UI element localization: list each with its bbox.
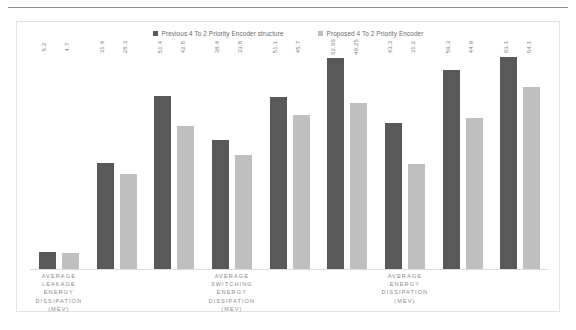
bar-group: 38.433.8 [203, 48, 261, 269]
bar-value-label: 51.1 [272, 41, 278, 53]
axis-baseline [30, 269, 549, 270]
bar[interactable]: 44.9 [466, 118, 483, 269]
bar-slot: 54.1 [523, 48, 540, 269]
bar[interactable]: 45.7 [293, 115, 310, 269]
legend-item[interactable]: Previous 4 To 2 Priority Encoder structu… [153, 30, 284, 37]
chart-legend: Previous 4 To 2 Priority Encoder structu… [17, 30, 559, 37]
category-slot [491, 272, 549, 312]
bar-value-label: 45.7 [295, 41, 301, 53]
bar-group: 51.145.7 [261, 48, 319, 269]
bar[interactable]: 33.8 [235, 155, 252, 269]
bar-slot: 51.1 [270, 48, 287, 269]
category-slot: AVERAGESWITCHINGENERGYDISSIPATION(MEV) [203, 272, 261, 312]
category-label-line: AVERAGE [209, 272, 256, 280]
category-label-line: ENERGY [382, 280, 429, 288]
bar[interactable]: 54.1 [523, 87, 540, 269]
bar[interactable]: 42.5 [177, 126, 194, 269]
bar[interactable]: 43.3 [385, 123, 402, 269]
bar-slot: 5.2 [39, 48, 56, 269]
bar[interactable]: 28.3 [120, 174, 137, 269]
category-slot [318, 272, 376, 312]
category-label-line: SWITCHING [209, 280, 256, 288]
category-slot [88, 272, 146, 312]
bar-slot: 59.3 [443, 48, 460, 269]
bar-value-label: 54.1 [526, 41, 532, 53]
category-slot: AVERAGEENERGYDISSIPATION(MEV) [376, 272, 434, 312]
bar-value-label: 49.25 [353, 39, 359, 55]
bar-slot: 42.5 [177, 48, 194, 269]
bar-value-label: 63.1 [503, 41, 509, 53]
bar-slot: 38.4 [212, 48, 229, 269]
chart-page: Previous 4 To 2 Priority Encoder structu… [0, 0, 576, 330]
bar-value-label: 28.3 [122, 41, 128, 53]
category-axis-label: AVERAGESWITCHINGENERGYDISSIPATION(MEV) [209, 272, 256, 312]
bar-slot: 63.1 [500, 48, 517, 269]
category-label-line: (MEV) [35, 305, 82, 313]
category-label-line: AVERAGE [35, 272, 82, 280]
bar-slot: 28.3 [120, 48, 137, 269]
category-axis-label: AVERAGEENERGYDISSIPATION(MEV) [382, 272, 429, 312]
bar-group: 5.24.7 [30, 48, 88, 269]
category-label-line: DISSIPATION [209, 297, 256, 305]
bar-value-label: 44.9 [468, 41, 474, 53]
bar-value-label: 42.5 [180, 41, 186, 53]
bar-slot: 51.4 [154, 48, 171, 269]
square-marker-icon [153, 31, 158, 36]
bar-slot: 49.25 [350, 48, 367, 269]
plot-area: 5.24.731.428.351.442.538.433.851.145.762… [30, 48, 549, 270]
category-label-line: (MEV) [382, 297, 429, 305]
bar[interactable]: 59.3 [443, 70, 460, 269]
square-marker-icon [318, 31, 323, 36]
category-slot [434, 272, 492, 312]
bar-value-label: 59.3 [445, 41, 451, 53]
bar-value-label: 33.8 [237, 41, 243, 53]
legend-item-label: Proposed 4 To 2 Priority Encoder [327, 30, 424, 37]
category-slot [145, 272, 203, 312]
bar-slot: 4.7 [62, 48, 79, 269]
bar[interactable]: 51.4 [154, 96, 171, 269]
bar[interactable]: 49.25 [350, 103, 367, 269]
bar-group: 62.6649.25 [318, 48, 376, 269]
category-label-line: (MEV) [209, 305, 256, 313]
bar-slot: 62.66 [327, 48, 344, 269]
category-axis: AVERAGELEAKAGEENERGYDISSIPATION(MEV)AVER… [30, 272, 549, 312]
bar[interactable]: 62.66 [327, 58, 344, 269]
bar-value-label: 5.2 [41, 43, 47, 52]
bar[interactable]: 38.4 [212, 140, 229, 269]
bar-value-label: 38.4 [214, 41, 220, 53]
bar[interactable]: 51.1 [270, 97, 287, 269]
bar-group: 43.331.2 [376, 48, 434, 269]
top-divider-rule [8, 7, 568, 8]
bar-value-label: 51.4 [157, 41, 163, 53]
bar[interactable]: 31.2 [408, 164, 425, 269]
category-axis-label: AVERAGELEAKAGEENERGYDISSIPATION(MEV) [35, 272, 82, 312]
bar[interactable]: 31.4 [97, 163, 114, 269]
bar-group: 31.428.3 [88, 48, 146, 269]
bar-value-label: 43.3 [387, 41, 393, 53]
legend-item[interactable]: Proposed 4 To 2 Priority Encoder [318, 30, 424, 37]
bar[interactable]: 4.7 [62, 253, 79, 269]
bar[interactable]: 5.2 [39, 252, 56, 269]
bar-group: 63.154.1 [491, 48, 549, 269]
bar-value-label: 4.7 [64, 43, 70, 52]
bar-group: 51.442.5 [145, 48, 203, 269]
bar-slot: 43.3 [385, 48, 402, 269]
category-label-line: ENERGY [35, 288, 82, 296]
chart-frame: Previous 4 To 2 Priority Encoder structu… [16, 21, 560, 312]
bar[interactable]: 63.1 [500, 57, 517, 269]
bar-group: 59.344.9 [434, 48, 492, 269]
category-label-line: ENERGY [209, 288, 256, 296]
category-slot: AVERAGELEAKAGEENERGYDISSIPATION(MEV) [30, 272, 88, 312]
category-slot [261, 272, 319, 312]
bar-slot: 31.2 [408, 48, 425, 269]
bar-value-label: 31.4 [99, 41, 105, 53]
bar-slot: 45.7 [293, 48, 310, 269]
category-label-line: LEAKAGE [35, 280, 82, 288]
bar-slot: 33.8 [235, 48, 252, 269]
bar-value-label: 31.2 [410, 41, 416, 53]
category-label-line: DISSIPATION [382, 288, 429, 296]
bar-slot: 31.4 [97, 48, 114, 269]
category-label-line: DISSIPATION [35, 297, 82, 305]
category-label-line: AVERAGE [382, 272, 429, 280]
bar-value-label: 62.66 [330, 39, 336, 55]
